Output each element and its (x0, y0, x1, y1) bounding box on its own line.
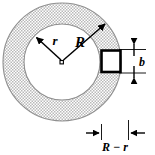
annulus-diagram-svg: r R b R − r (0, 0, 155, 155)
thickness-label: b (139, 55, 145, 69)
annulus-ring (0, 0, 155, 155)
center-point-marker (60, 61, 63, 64)
wall-thickness-label: R − r (101, 140, 128, 154)
annulus-figure: r R b R − r (0, 0, 155, 155)
square-element (102, 51, 121, 73)
outer-radius-label: R (74, 34, 85, 50)
